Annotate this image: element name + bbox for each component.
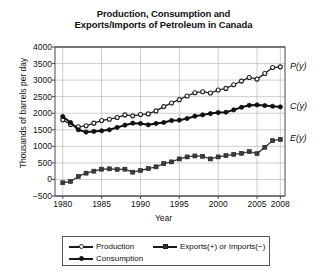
filled-circle-marker-icon bbox=[69, 254, 93, 263]
legend-label-production: Production bbox=[96, 242, 134, 251]
square-marker-icon bbox=[153, 242, 177, 251]
legend-item-production: Production bbox=[69, 242, 134, 251]
open-circle-marker-icon bbox=[69, 242, 93, 251]
legend-item-exports-imports: Exports(+) or Imports(−) bbox=[153, 242, 265, 251]
chart-figure: Production, Consumption and Exports/Impo… bbox=[0, 0, 327, 275]
legend-item-consumption: Consumption bbox=[69, 254, 143, 263]
plot-area bbox=[0, 0, 327, 275]
chart-legend: Production Exports(+) or Imports(−) Cons… bbox=[62, 236, 270, 266]
legend-label-consumption: Consumption bbox=[96, 254, 143, 263]
legend-label-exports-imports: Exports(+) or Imports(−) bbox=[180, 242, 265, 251]
